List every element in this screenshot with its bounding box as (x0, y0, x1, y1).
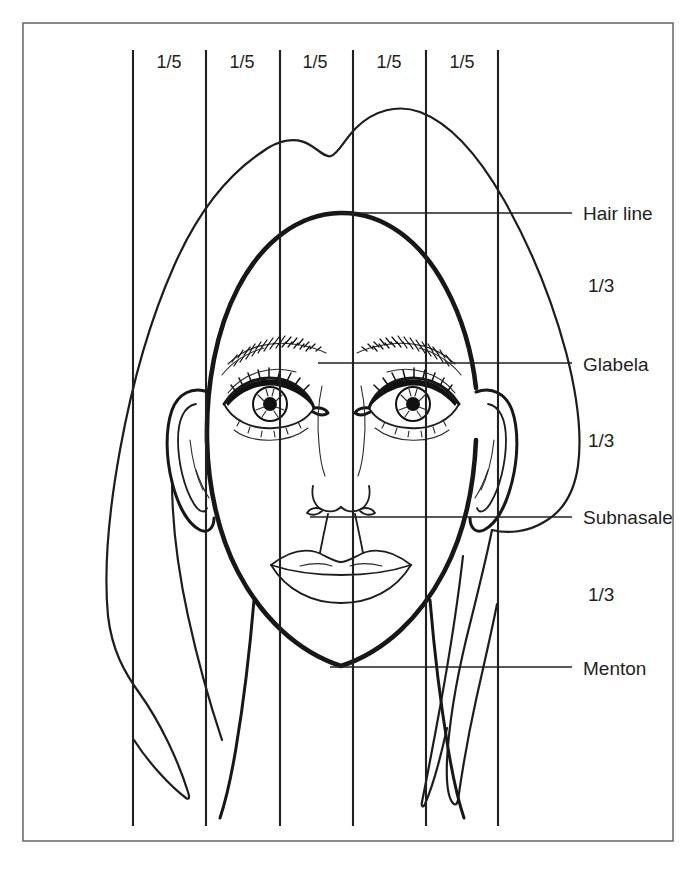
hair-line-label: Hair line (583, 203, 653, 224)
glabela-label: Glabela (583, 354, 649, 375)
figure-border (23, 23, 673, 841)
fifth-label-2: 1/5 (229, 52, 254, 72)
subnasale-label: Subnasale (583, 507, 673, 528)
fifth-label-5: 1/5 (449, 52, 474, 72)
third-label-1: 1/3 (588, 275, 614, 296)
right-eye (355, 368, 459, 440)
right-ear (470, 390, 517, 531)
third-labels: 1/3 1/3 1/3 (588, 275, 614, 605)
facial-proportions-figure: 1/5 1/5 1/5 1/5 1/5 1/3 1/3 1/3 Hair lin… (0, 0, 697, 874)
left-eye (224, 368, 328, 440)
lips (271, 551, 411, 603)
facial-proportions-diagram: 1/5 1/5 1/5 1/5 1/5 1/3 1/3 1/3 Hair lin… (0, 0, 697, 874)
third-label-2: 1/3 (588, 430, 614, 451)
fifth-label-3: 1/5 (302, 52, 327, 72)
menton-label: Menton (583, 658, 646, 679)
third-label-3: 1/3 (588, 584, 614, 605)
fifth-label-4: 1/5 (376, 52, 401, 72)
neck-outline (220, 600, 464, 818)
nose (307, 386, 375, 553)
face-outline (207, 213, 476, 666)
fifth-label-1: 1/5 (156, 52, 181, 72)
